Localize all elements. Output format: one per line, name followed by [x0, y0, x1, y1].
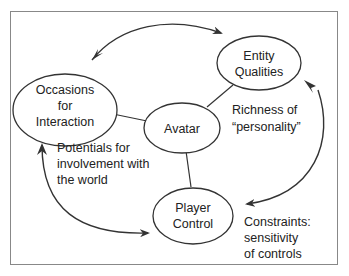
arrowhead-to-entity: [304, 80, 316, 93]
annotation-potentials: Potentials for involvement with the worl…: [57, 141, 149, 187]
annotation-potentials-line-2: involvement with: [57, 157, 149, 171]
node-occasions-line-1: Occasions: [36, 83, 94, 97]
node-avatar-label: Avatar: [164, 122, 200, 136]
node-avatar: Avatar: [144, 103, 220, 153]
annotation-potentials-line-1: Potentials for: [57, 141, 130, 155]
node-occasions-line-2: for: [58, 99, 73, 113]
annotation-richness-line-2: “personality”: [232, 120, 301, 134]
annotation-richness-line-1: Richness of: [232, 103, 298, 117]
node-entity-line-1: Entity: [243, 49, 275, 63]
node-player-line-1: Player: [175, 201, 210, 215]
node-entity: Entity Qualities: [217, 36, 301, 90]
annotation-constraints-line-3: of controls: [244, 247, 302, 261]
node-occasions-line-3: Interaction: [36, 115, 94, 129]
node-player: Player Control: [153, 188, 233, 244]
annotation-constraints: Constraints: sensitivity of controls: [244, 215, 311, 261]
annotation-potentials-line-3: the world: [57, 173, 108, 187]
annotation-richness: Richness of “personality”: [232, 103, 301, 134]
connector-avatar-player: [186, 151, 191, 187]
connector-occasions-avatar: [113, 114, 147, 121]
arrow-occasions-entity: [92, 24, 221, 60]
connector-entity-avatar: [207, 85, 233, 107]
annotation-constraints-line-1: Constraints:: [244, 215, 311, 229]
avatar-concept-diagram: Occasions for Interaction Entity Qualiti…: [0, 0, 349, 276]
node-occasions: Occasions for Interaction: [13, 74, 117, 146]
annotation-constraints-line-2: sensitivity: [244, 231, 299, 245]
node-player-line-2: Control: [173, 217, 213, 231]
node-entity-line-2: Qualities: [235, 65, 284, 79]
